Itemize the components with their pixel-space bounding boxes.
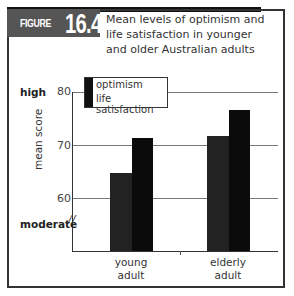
category-young-line2: adult	[101, 269, 161, 282]
legend-life-satisfaction: life satisfaction	[96, 93, 167, 115]
legend-swatch	[85, 78, 93, 107]
bar-young-optimism	[110, 173, 132, 251]
category-elderly-line2: adult	[198, 269, 258, 282]
legend: optimism life satisfaction	[84, 77, 168, 108]
y-axis-label: mean score	[32, 109, 44, 170]
category-elderly-line1: elderly	[198, 256, 258, 269]
legend-optimism: optimism	[96, 79, 143, 90]
tick-60: 60	[57, 192, 71, 205]
bar-young-life-satisfaction	[132, 138, 153, 251]
bar-chart: 80 70 60 high moderate // mean score opt…	[0, 0, 294, 296]
category-young-line1: young	[101, 256, 161, 269]
x-tick	[180, 251, 181, 255]
tick-80: 80	[57, 85, 71, 98]
axis-break-icon: //	[68, 213, 75, 226]
tick-70: 70	[57, 139, 71, 152]
category-elderly-adult: elderly adult	[198, 256, 258, 282]
bar-elderly-optimism	[207, 136, 229, 251]
category-young-adult: young adult	[101, 256, 161, 282]
bar-elderly-life-satisfaction	[229, 110, 250, 251]
x-axis	[72, 251, 278, 252]
high-label: high	[20, 86, 46, 98]
